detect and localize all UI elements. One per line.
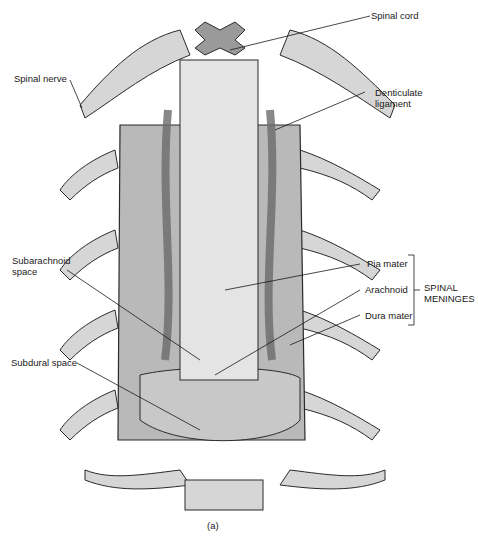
label-spinal-cord: Spinal cord [371,10,419,21]
figure-caption: (a) [207,520,219,531]
spinal-meninges-diagram: Spinal cord Spinal nerve Denticulate lig… [0,0,478,536]
spinal-cord-column [180,60,258,380]
label-spinal-meninges: SPINAL MENINGES [424,282,475,304]
label-spinal-nerve: Spinal nerve [14,73,67,84]
label-arachnoid: Arachnoid [365,284,408,295]
label-subarachnoid-space: Subarachnoid space [12,255,71,277]
label-pia-mater: Pia mater [367,258,408,269]
spinal-nerve-top-left [80,30,190,118]
label-dura-mater: Dura mater [365,310,413,321]
label-subdural-space: Subdural space [11,357,77,368]
label-denticulate-ligament: Denticulate ligament [375,87,423,109]
